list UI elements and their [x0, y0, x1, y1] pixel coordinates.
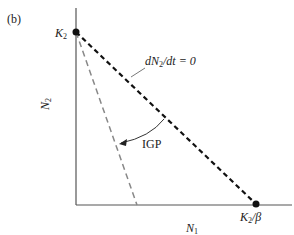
k2-point — [73, 29, 80, 36]
y-axis-label: N2 — [39, 98, 53, 110]
igp-label: IGP — [142, 138, 161, 150]
arrowhead-icon — [119, 139, 127, 146]
k2-beta-point — [253, 201, 260, 208]
x-axis-label: N1 — [186, 222, 198, 235]
panel-label: (b) — [7, 13, 21, 25]
isocline-label: dN2/dt = 0 — [145, 55, 196, 69]
k2-label: K2 — [55, 27, 67, 41]
k2-beta-label: K2/β — [240, 211, 261, 225]
shifted-isocline-line — [76, 32, 137, 205]
isocline-leader-line — [131, 68, 145, 77]
diagram-canvas — [0, 0, 294, 235]
